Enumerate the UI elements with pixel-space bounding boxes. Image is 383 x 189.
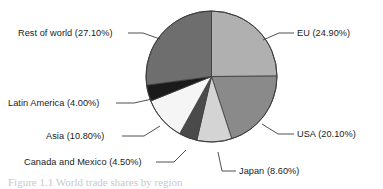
pie-slice-rest-of-world bbox=[146, 11, 211, 85]
leader-line-japan bbox=[218, 152, 236, 171]
pie-slice-eu bbox=[212, 11, 278, 77]
leader-line-rest-of-world bbox=[128, 33, 160, 39]
leader-line-eu bbox=[263, 33, 294, 40]
leader-line-latin-america bbox=[116, 99, 152, 103]
pie-label-japan: Japan (8.60%) bbox=[239, 167, 299, 176]
figure-caption-strip: Figure 1.1 World trade shares by region bbox=[0, 176, 383, 189]
pie-chart-figure: Rest of world (27.10%) EU (24.90%) Latin… bbox=[0, 0, 383, 189]
pie-label-rest-of-world: Rest of world (27.10%) bbox=[18, 29, 113, 38]
leader-line-asia bbox=[122, 126, 160, 136]
pie-label-asia: Asia (10.80%) bbox=[46, 132, 104, 141]
pie-label-latin-america: Latin America (4.00%) bbox=[8, 99, 99, 108]
pie-label-eu: EU (24.90%) bbox=[297, 29, 350, 38]
leader-line-canada-mexico bbox=[156, 150, 186, 162]
pie-label-canada-mexico: Canada and Mexico (4.50%) bbox=[24, 158, 142, 167]
figure-caption-text: Figure 1.1 World trade shares by region bbox=[0, 176, 383, 188]
leader-line-usa bbox=[262, 124, 294, 134]
pie-slice-group bbox=[146, 11, 277, 142]
pie-label-usa: USA (20.10%) bbox=[297, 130, 356, 139]
